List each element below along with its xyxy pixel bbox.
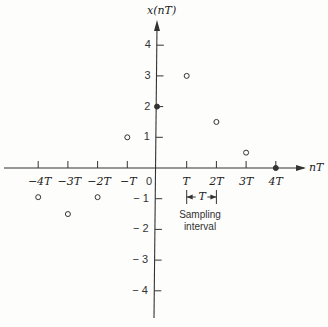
bracket-arrow-right-icon [210,195,216,200]
x-tick-label: 3T [239,176,253,187]
annotation-line-1: Sampling [170,209,230,221]
y-tick-label: − 2 [133,223,149,234]
x-tick-label: −3T [58,176,82,187]
sampled-signal-plot: −4T−3T−2T−TT2T3T4T04321− 1− 2− 3− 4T x(n… [0,0,328,327]
y-axis-label: x(nT) [147,5,176,16]
y-axis-line [154,26,157,318]
x-tick-label: −4T [28,176,52,187]
y-tick-label: 1 [144,131,150,142]
sample-point [125,135,130,140]
sample-point [36,195,41,200]
origin-label: 0 [146,176,152,187]
x-tick-label: 2T [209,176,223,187]
bracket-arrow-left-icon [187,195,193,200]
plot-canvas [0,0,328,327]
sample-point [95,195,100,200]
y-axis-arrow-icon [154,20,160,31]
y-tick-label: 4 [145,39,151,50]
x-tick-label: −T [120,176,137,187]
y-tick-label: − 1 [133,193,149,204]
sampling-interval-annotation: Sampling interval [170,209,230,233]
y-tick-label: 3 [144,70,150,81]
y-tick-label: − 4 [132,285,148,296]
sample-point [155,104,160,109]
y-tick-label: 2 [144,101,150,112]
x-axis-label: nT [309,162,323,173]
x-tick-label: −2T [87,176,111,187]
x-tick-label: T [183,176,190,187]
y-tick-label: − 3 [133,254,149,265]
bracket-label: T [199,191,206,202]
annotation-line-2: interval [170,221,230,233]
x-axis-arrow-icon [296,165,306,171]
sample-point [184,73,189,78]
sample-point [65,212,70,217]
sample-point [214,119,219,124]
sample-point [244,150,249,155]
sample-point [273,166,278,171]
x-tick-label: 4T [269,176,283,187]
